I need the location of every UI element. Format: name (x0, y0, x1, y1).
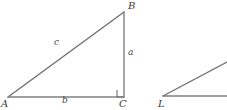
side-label-c: c (54, 38, 59, 47)
right-angle-marker (117, 90, 124, 97)
geometry-figure-canvas: A B C c a b L (0, 0, 227, 110)
side-label-a: a (128, 48, 133, 57)
side-hypotenuse-line (8, 12, 124, 97)
triangle-abc-shape (8, 12, 124, 97)
figure-l-shape (163, 62, 227, 96)
geometry-vector-layer (0, 0, 227, 110)
vertex-label-a: A (1, 99, 8, 109)
vertex-label-b: B (128, 1, 135, 11)
side-label-b: b (62, 96, 68, 105)
ray-upper-line (163, 62, 227, 96)
vertex-label-l: L (158, 99, 165, 109)
vertex-label-c: C (119, 99, 127, 109)
